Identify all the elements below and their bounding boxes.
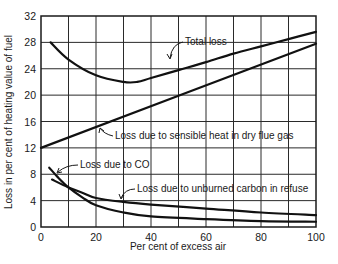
grid xyxy=(41,16,316,227)
y-tick-label: 32 xyxy=(24,10,36,22)
y-tick-label: 16 xyxy=(24,116,36,128)
y-tick-label: 24 xyxy=(24,63,36,75)
x-tick-label: 100 xyxy=(307,231,325,243)
label-co: Loss due to CO xyxy=(80,159,150,170)
x-tick-label: 80 xyxy=(255,231,267,243)
y-tick-label: 20 xyxy=(24,89,36,101)
y-tick-label: 12 xyxy=(24,142,36,154)
x-tick-label: 0 xyxy=(38,231,44,243)
y-tick-label: 8 xyxy=(30,168,36,180)
x-tick-label: 20 xyxy=(90,231,102,243)
total-loss-arrow xyxy=(170,42,183,58)
label-total-loss: Total loss xyxy=(185,36,227,47)
y-tick-label: 0 xyxy=(30,221,36,233)
y-axis-label: Loss in per cent of heating value of fue… xyxy=(3,35,14,209)
total-loss-arrowhead xyxy=(167,54,172,59)
y-tick-label: 4 xyxy=(30,195,36,207)
chart: 048121620242832 020406080100 Total loss … xyxy=(0,0,338,264)
y-axis-ticks: 048121620242832 xyxy=(24,10,36,233)
series-total-loss xyxy=(51,32,316,83)
x-axis-label: Per cent of excess air xyxy=(130,241,227,252)
label-sensible-heat: Loss due to sensible heat in dry flue ga… xyxy=(115,130,293,141)
y-tick-label: 28 xyxy=(24,36,36,48)
label-unburned-carbon: Loss due to unburned carbon in refuse xyxy=(137,183,309,194)
